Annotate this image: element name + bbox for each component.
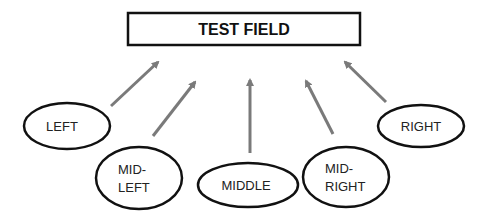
node-mid-left-label-line2: LEFT [118,180,150,195]
node-right: RIGHT [378,105,464,147]
node-left-label: LEFT [46,119,78,134]
node-middle: MIDDLE [198,163,298,207]
node-mid-left-label-line1: MID- [118,162,146,177]
node-mid-right: MID- RIGHT [303,147,389,207]
diagram-canvas: TEST FIELD LEFT MID- LEFT MIDDLE MID- RI… [0,0,489,220]
arrow-mid-left-to-title [153,82,195,136]
node-middle-label: MIDDLE [221,178,270,193]
node-right-label: RIGHT [401,119,442,134]
node-left: LEFT [24,103,110,149]
arrow-mid-right-to-title [306,81,333,134]
node-mid-right-label-line2: RIGHT [325,179,366,194]
arrow-left-to-title [111,62,158,106]
node-mid-left: MID- LEFT [96,147,182,209]
node-mid-right-label-line1: MID- [325,161,353,176]
arrow-right-to-title [345,62,386,102]
title-box: TEST FIELD [128,13,360,45]
arrows [111,62,386,153]
title-box-label: TEST FIELD [198,21,290,38]
